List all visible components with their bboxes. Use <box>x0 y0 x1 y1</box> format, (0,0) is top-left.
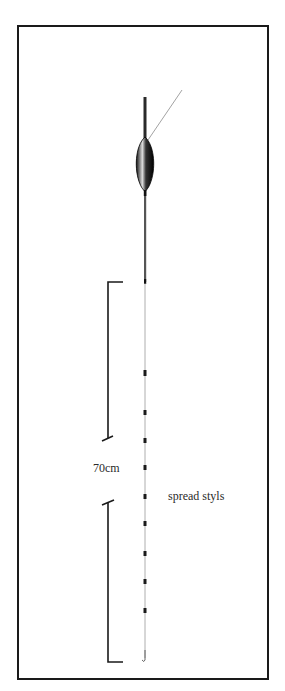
upper-measure-bracket <box>102 282 123 441</box>
main-line <box>148 90 182 140</box>
shot-icon <box>144 521 147 526</box>
shot-icon <box>144 438 147 443</box>
shot-pattern-label: spread styls <box>168 490 224 502</box>
shot-icon <box>144 410 147 415</box>
shot-icon <box>144 579 147 584</box>
shot-icon <box>144 465 147 470</box>
float-antenna <box>144 97 147 141</box>
shot-icon <box>144 551 147 556</box>
float-rig-diagram <box>0 0 285 691</box>
shot-icon <box>144 370 147 376</box>
float-stem <box>144 190 146 282</box>
hook-icon <box>142 650 145 662</box>
lower-measure-bracket <box>102 500 123 662</box>
shot-icon <box>144 608 147 613</box>
length-label: 70cm <box>93 462 120 474</box>
shot-icon <box>144 494 147 499</box>
stem-tip <box>144 190 147 196</box>
float-body <box>136 137 153 192</box>
